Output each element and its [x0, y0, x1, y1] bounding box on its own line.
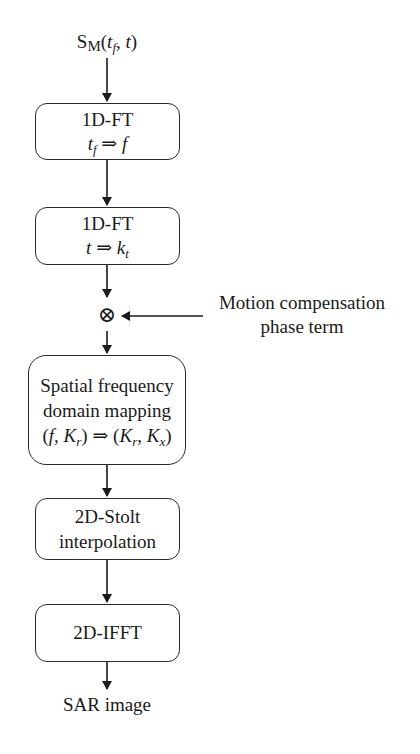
multiply-operator-icon: ⊗	[94, 303, 120, 327]
step2-expression: t ⇒ kt	[86, 236, 129, 260]
motion-compensation-label: Motion compensation phase term	[204, 291, 400, 339]
output-sar-image-label: SAR image	[47, 693, 167, 717]
step-spatial-frequency-mapping: Spatial frequency domain mapping (f, Kr)…	[28, 355, 186, 465]
step-1d-ft-slowtime: 1D-FT t ⇒ kt	[35, 207, 180, 265]
step-2d-stolt-interpolation: 2D-Stolt interpolation	[35, 498, 180, 560]
input-signal-label: SM(tf, t)	[57, 30, 157, 54]
step2-title: 1D-FT	[82, 212, 134, 236]
step-2d-ifft: 2D-IFFT	[35, 604, 180, 662]
step3-expression: (f, Kr) ⇒ (Kr, Kx)	[43, 423, 172, 448]
step1-title: 1D-FT	[82, 108, 134, 132]
step-1d-ft-range: 1D-FT tf ⇒ f	[35, 103, 180, 160]
step1-expression: tf ⇒ f	[88, 132, 128, 156]
